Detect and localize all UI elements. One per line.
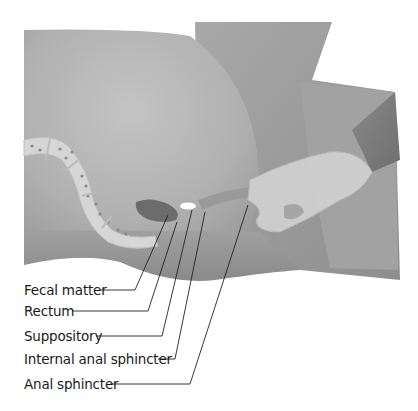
label-rectum: Rectum [24, 303, 74, 319]
label-anal-sphincter: Anal sphincter [24, 376, 118, 392]
label-suppository: Suppository [24, 328, 102, 344]
anatomy-illustration [0, 0, 418, 411]
suppository [180, 202, 196, 209]
label-internal-anal-sphincter: Internal anal sphincter [24, 351, 172, 367]
label-fecal-matter: Fecal matter [24, 282, 107, 298]
